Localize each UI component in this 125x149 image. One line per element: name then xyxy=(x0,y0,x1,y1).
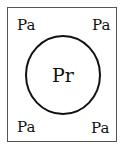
corner-label-top-left: Pa xyxy=(17,16,35,34)
diagram-canvas: Pr Pa Pa Pa Pa xyxy=(0,0,125,149)
circle-label: Pr xyxy=(52,64,75,86)
corner-label-bottom-right: Pa xyxy=(91,119,109,137)
corner-label-bottom-left: Pa xyxy=(17,118,35,136)
corner-label-top-right: Pa xyxy=(92,16,110,34)
